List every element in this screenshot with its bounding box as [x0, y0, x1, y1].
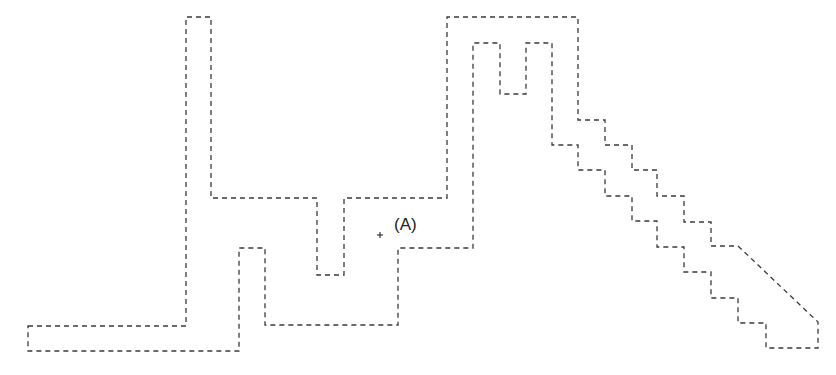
point-marker-plus-icon	[377, 232, 383, 238]
dashed-outline-shape	[28, 17, 818, 351]
diagram-canvas: (A)	[0, 0, 836, 375]
point-label-a: (A)	[394, 215, 417, 234]
